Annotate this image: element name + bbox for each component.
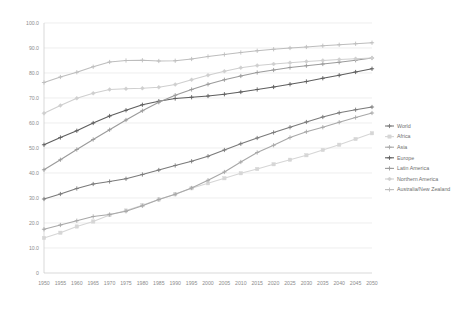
x-tick-label: 1980: [137, 280, 149, 286]
data-point-marker: [124, 58, 128, 62]
data-point-marker: [288, 61, 292, 65]
data-point-marker: [354, 70, 358, 74]
legend-label: World: [397, 123, 411, 129]
y-tick-label: 30.0: [29, 195, 39, 201]
data-point-marker: [321, 115, 325, 119]
data-point-marker: [42, 197, 46, 201]
legend-item-asia[interactable]: Asia: [385, 144, 407, 150]
chart-legend: WorldAfricaAsiaEuropeLatin AmericaNorthe…: [385, 123, 450, 193]
data-point-marker: [272, 143, 276, 147]
data-point-marker: [239, 66, 243, 70]
data-point-marker: [321, 59, 325, 63]
data-point-marker: [173, 93, 177, 97]
data-point-marker: [239, 74, 243, 78]
data-point-marker: [206, 154, 210, 158]
data-point-marker: [304, 45, 308, 49]
data-point-marker: [338, 143, 341, 146]
data-point-marker: [239, 172, 242, 175]
data-point-marker: [222, 69, 226, 73]
y-tick-label: 10.0: [29, 245, 39, 251]
data-point-marker: [42, 143, 46, 147]
data-point-marker: [387, 188, 391, 192]
series-europe: [42, 67, 374, 147]
legend-item-latin-america[interactable]: Latin America: [385, 165, 429, 171]
data-point-marker: [272, 130, 276, 134]
data-point-marker: [370, 111, 374, 115]
data-point-marker: [255, 87, 259, 91]
data-point-marker: [288, 46, 292, 50]
data-point-marker: [321, 44, 325, 48]
data-point-marker: [42, 227, 46, 231]
data-point-marker: [124, 87, 128, 91]
legend-item-world[interactable]: World: [385, 123, 411, 129]
data-point-marker: [42, 111, 46, 115]
data-point-marker: [91, 214, 95, 218]
data-point-marker: [304, 130, 308, 134]
data-point-marker: [42, 80, 46, 84]
x-tick-label: 2020: [268, 280, 280, 286]
y-tick-label: 80.0: [29, 70, 39, 76]
legend-item-northern-america[interactable]: Northern America: [385, 176, 438, 182]
data-point-marker: [255, 49, 259, 53]
y-tick-label: 60.0: [29, 120, 39, 126]
data-point-marker: [108, 60, 112, 64]
data-point-marker: [190, 87, 194, 91]
data-point-marker: [58, 135, 62, 139]
data-point-marker: [42, 236, 45, 239]
legend-label: Asia: [397, 144, 407, 150]
legend-label: Northern America: [397, 176, 438, 182]
data-point-marker: [75, 225, 78, 228]
data-point-marker: [58, 223, 62, 227]
data-point-marker: [190, 78, 194, 82]
data-point-marker: [222, 52, 226, 56]
data-point-marker: [157, 168, 161, 172]
data-point-marker: [255, 64, 259, 68]
data-point-marker: [190, 57, 194, 61]
x-tick-label: 1985: [153, 280, 165, 286]
data-point-marker: [370, 56, 374, 60]
line-chart: 010.020.030.040.050.060.070.080.090.0100…: [0, 0, 453, 315]
data-point-marker: [370, 132, 373, 135]
data-point-marker: [239, 142, 243, 146]
data-point-marker: [58, 104, 62, 108]
data-point-marker: [387, 145, 391, 149]
data-point-marker: [288, 158, 291, 161]
data-point-marker: [370, 41, 374, 45]
data-point-marker: [354, 108, 358, 112]
data-point-marker: [124, 108, 128, 112]
legend-item-europe[interactable]: Europe: [385, 155, 414, 161]
data-point-marker: [272, 85, 276, 89]
y-tick-label: 90.0: [29, 45, 39, 51]
data-point-marker: [75, 186, 79, 190]
legend-item-australia-new-zealand[interactable]: Australia/New Zealand: [385, 186, 450, 192]
y-tick-label: 70.0: [29, 95, 39, 101]
x-tick-label: 1975: [120, 280, 132, 286]
data-point-marker: [157, 85, 161, 89]
data-point-marker: [75, 129, 79, 133]
data-point-marker: [173, 83, 177, 87]
data-point-marker: [190, 95, 194, 99]
data-point-marker: [206, 82, 210, 86]
data-point-marker: [304, 120, 308, 124]
data-point-marker: [124, 177, 128, 181]
data-point-marker: [58, 75, 62, 79]
data-point-marker: [388, 177, 392, 181]
data-point-marker: [157, 59, 161, 63]
data-point-marker: [75, 219, 79, 223]
data-point-marker: [108, 114, 112, 118]
legend-item-africa[interactable]: Africa: [385, 133, 411, 139]
legend-label: Latin America: [397, 165, 429, 171]
x-tick-label: 1950: [38, 280, 50, 286]
y-axis-tick-labels: 010.020.030.040.050.060.070.080.090.0100…: [26, 20, 39, 276]
series-line: [44, 113, 372, 229]
data-point-marker: [272, 62, 276, 66]
x-tick-label: 2010: [235, 280, 247, 286]
data-point-marker: [288, 125, 292, 129]
data-point-marker: [75, 70, 79, 74]
x-tick-label: 2015: [251, 280, 263, 286]
data-point-marker: [272, 68, 276, 72]
x-tick-label: 2045: [350, 280, 362, 286]
x-tick-label: 1965: [87, 280, 99, 286]
data-point-marker: [223, 177, 226, 180]
data-point-marker: [321, 125, 325, 129]
